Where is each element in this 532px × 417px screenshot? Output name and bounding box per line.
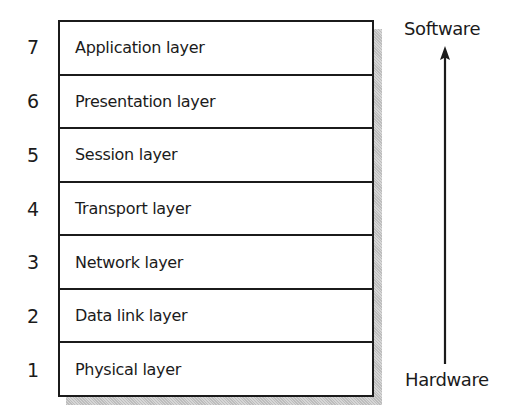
software-label: Software — [404, 18, 480, 39]
layer-number-6: 6 — [14, 74, 52, 128]
layer-transport: Transport layer — [60, 181, 372, 235]
layer-physical: Physical layer — [60, 341, 372, 395]
layer-number-4: 4 — [14, 182, 52, 236]
layer-network: Network layer — [60, 234, 372, 288]
layer-application: Application layer — [60, 22, 372, 74]
layer-stack: Application layer Presentation layer Ses… — [58, 20, 374, 397]
arrow-up-icon — [438, 46, 452, 364]
layer-number-7: 7 — [14, 20, 52, 74]
layer-session: Session layer — [60, 127, 372, 181]
layer-number-1: 1 — [14, 343, 52, 397]
layer-numbers: 7 6 5 4 3 2 1 — [14, 20, 52, 397]
layer-number-2: 2 — [14, 289, 52, 343]
layer-presentation: Presentation layer — [60, 74, 372, 128]
layer-number-5: 5 — [14, 128, 52, 182]
layer-data-link: Data link layer — [60, 288, 372, 342]
hardware-label: Hardware — [405, 369, 489, 390]
layer-number-3: 3 — [14, 235, 52, 289]
